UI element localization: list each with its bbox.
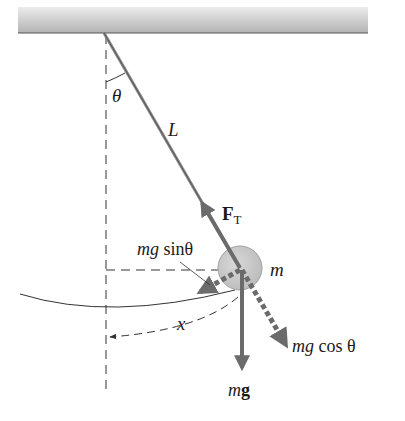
length-label: L <box>167 119 179 140</box>
mg-sin-label: mg sinθ <box>137 239 193 259</box>
mass-label: m <box>270 259 284 280</box>
weight-label: mg <box>228 380 250 400</box>
tension-label: FT <box>222 203 242 227</box>
pendulum-diagram: θ L FT m mg sinθ mg cos θ mg x <box>0 0 405 421</box>
angle-arc <box>106 73 125 82</box>
theta-label: θ <box>112 85 121 106</box>
ceiling <box>18 7 368 33</box>
displacement-arc <box>110 297 238 337</box>
mg-sin-leader <box>180 262 210 285</box>
mg-cos-label: mg cos θ <box>292 336 356 356</box>
displacement-label: x <box>176 313 186 334</box>
